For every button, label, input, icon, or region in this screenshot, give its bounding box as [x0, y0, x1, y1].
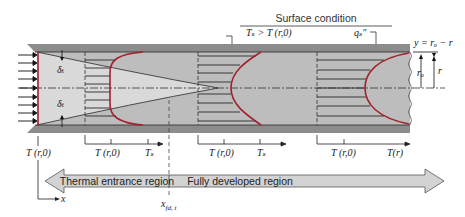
developed-flux-axis-label-1: T(r)	[387, 147, 404, 159]
entrance-axis-label-1: Tₛ	[145, 147, 154, 158]
delta-t-top-label: δₜ	[57, 64, 65, 75]
profile-axes	[38, 135, 410, 146]
delta-t-bottom-label: δₜ	[57, 98, 65, 109]
constant-flux-condition: qₛ″	[354, 27, 367, 38]
fully-developed-region-label: Fully developed region	[187, 175, 293, 187]
developed-ts-axis-label-1: Tₛ	[257, 147, 266, 158]
x-fd-t-label: xfd, t	[160, 198, 177, 212]
surface-condition-header: Surface condition Tₛ > T (r,0) qₛ″	[226, 12, 392, 48]
radius-annotation: y = rₒ − r rₒ r	[413, 37, 453, 88]
x-axis-label: x	[60, 193, 66, 204]
y-definition: y = rₒ − r	[413, 37, 453, 48]
r-label: r	[438, 65, 442, 76]
region-arrow: Thermal entrance region Fully developed …	[45, 169, 444, 193]
bottom-wall	[27, 125, 410, 133]
developed-flux-axis-label-0: T (r,0)	[331, 147, 356, 159]
pipe	[20, 44, 445, 133]
constant-ts-condition: Tₛ > T (r,0)	[246, 27, 292, 39]
entrance-axis-label-0: T (r,0)	[95, 147, 120, 159]
developed-ts-axis-label-0: T (r,0)	[209, 147, 234, 159]
thermal-entrance-region-label: Thermal entrance region	[60, 175, 175, 187]
surface-condition-label: Surface condition	[275, 12, 356, 24]
top-wall	[27, 44, 410, 52]
ro-label: rₒ	[417, 67, 424, 78]
inlet-axis-label: T (r,0)	[26, 147, 51, 159]
thermal-entrance-diagram: Surface condition Tₛ > T (r,0) qₛ″	[0, 0, 465, 217]
inlet-arrows	[18, 53, 37, 124]
